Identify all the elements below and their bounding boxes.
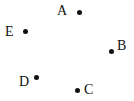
point-c-dot [75,88,80,93]
point-diagram: A B C D E [0,0,134,101]
point-e-label: E [5,25,14,39]
point-b-dot [109,49,114,54]
point-c-label: C [84,83,93,97]
point-e-dot [23,29,28,34]
point-d-dot [34,75,39,80]
point-b-label: B [117,39,126,53]
point-a-dot [77,10,82,15]
point-d-label: D [19,75,29,89]
point-a-label: A [57,4,67,18]
